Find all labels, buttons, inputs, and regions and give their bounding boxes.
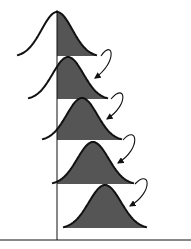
- curved-arrow-icon-1: [95, 50, 111, 78]
- curved-arrow-icon-2: [107, 93, 123, 119]
- shifting-distributions-diagram: [0, 0, 191, 249]
- bell-curves: [17, 12, 147, 228]
